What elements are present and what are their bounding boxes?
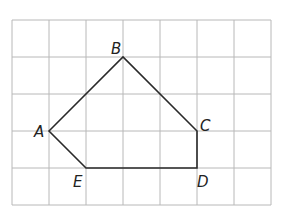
label-D: D xyxy=(197,173,209,191)
grid-lines xyxy=(12,20,271,205)
label-B: B xyxy=(111,40,121,58)
label-A: A xyxy=(33,123,44,141)
grid-diagram: A B C D E xyxy=(0,0,283,216)
label-C: C xyxy=(200,117,211,135)
label-E: E xyxy=(73,173,83,191)
